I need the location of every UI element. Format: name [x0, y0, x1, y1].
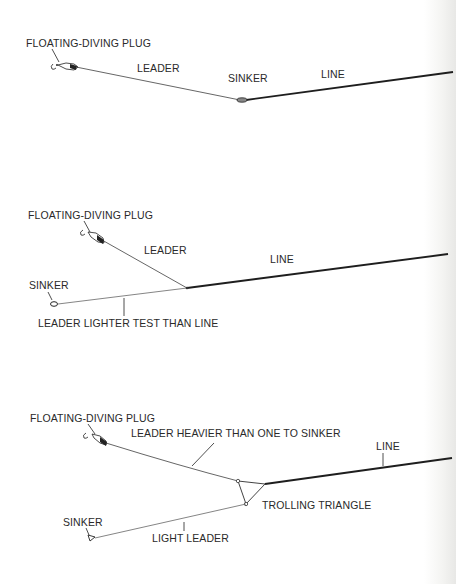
rig-1-main-line [246, 72, 453, 100]
rig-2-sinker-icon [51, 302, 58, 307]
rig-2-sinker-label: SINKER [29, 280, 69, 291]
rig-1-line-label: LINE [321, 69, 345, 80]
rig-3-main-line [265, 458, 452, 484]
rig-2-plug-icon [80, 230, 104, 244]
rig-3-plug-pointer [88, 424, 95, 434]
rig-1-plug-icon [51, 63, 78, 70]
rig-2 [48, 221, 448, 316]
fishing-rig-diagrams [0, 0, 456, 584]
rig-3-line-label: LINE [376, 441, 400, 452]
rig-2-swivel-icon [186, 287, 189, 290]
rig-2-sinker-pointer [48, 292, 52, 300]
rig-3-leader-label: LEADER HEAVIER THAN ONE TO SINKER [131, 428, 341, 439]
rig-2-sinker-leader-line [58, 288, 187, 304]
rig-3-plug-label: FLOATING-DIVING PLUG [30, 413, 155, 424]
rig-3-sinker-leader-label: LIGHT LEADER [152, 533, 229, 544]
rig-3-sinker-pointer [86, 528, 89, 535]
rig-3-triangle-label: TROLLING TRIANGLE [262, 500, 371, 511]
rig-2-plug-pointer [84, 221, 90, 232]
rig-1-plug-pointer [52, 49, 59, 62]
rig-3-triangle-top [238, 481, 265, 484]
rig-2-sinker-leader-label: LEADER LIGHTER TEST THAN LINE [38, 318, 218, 329]
rig-1-sinker-label: SINKER [228, 73, 268, 84]
rig-3-plug-icon [83, 433, 107, 446]
rig-3-sinker-label: SINKER [63, 517, 103, 528]
diagram-page: FLOATING-DIVING PLUG LEADER SINKER LINE … [0, 0, 456, 584]
rig-3-leader-pointer [192, 443, 214, 466]
rig-1-sinker-icon [237, 98, 247, 102]
rig-3-triangle-ring-icon [236, 479, 239, 482]
rig-2-line-label: LINE [270, 254, 294, 265]
rig-2-plug-label: FLOATING-DIVING PLUG [28, 210, 153, 221]
rig-3-plug-leader-line [106, 443, 238, 481]
rig-2-leader-label: LEADER [144, 245, 187, 256]
rig-3-triangle-left [238, 481, 246, 504]
rig-1-plug-label: FLOATING-DIVING PLUG [26, 38, 151, 49]
rig-2-main-line [187, 254, 448, 288]
rig-1-leader-label: LEADER [137, 63, 180, 74]
rig-3-sinker-icon [88, 535, 95, 541]
